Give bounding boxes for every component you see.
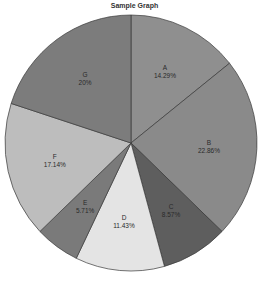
pie-chart: A14.29%B22.86%C8.57%D11.43%E5.71%F17.14%… (0, 0, 269, 281)
slice-category-label: G (83, 71, 88, 78)
slice-category-label: D (122, 214, 127, 221)
slice-percent-label: 5.71% (76, 207, 95, 214)
slice-category-label: C (169, 203, 174, 210)
slice-percent-label: 22.86% (198, 147, 220, 154)
slice-category-label: F (53, 153, 57, 160)
slice-percent-label: 17.14% (44, 161, 66, 168)
slice-category-label: B (207, 139, 211, 146)
slice-percent-label: 8.57% (162, 211, 181, 218)
slice-percent-label: 20% (79, 79, 92, 86)
slice-percent-label: 11.43% (113, 222, 135, 229)
slice-category-label: E (83, 199, 88, 206)
slice-percent-label: 14.29% (154, 72, 176, 79)
slice-category-label: A (163, 64, 168, 71)
